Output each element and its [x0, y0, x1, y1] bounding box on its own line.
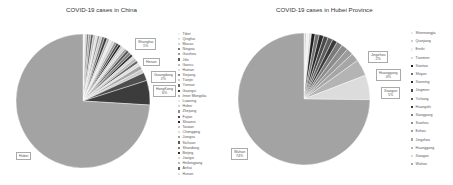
- legend-item: Qianjiang: [411, 37, 436, 45]
- legend-item: Inner Mongolia: [178, 93, 206, 98]
- legend-swatch-icon: [178, 121, 180, 123]
- legend-swatch-icon: [178, 157, 180, 159]
- legend-swatch-icon: [178, 38, 180, 40]
- legend-label: Ningxia: [183, 47, 195, 51]
- legend-label: Yunnan: [183, 83, 195, 87]
- legend-swatch-icon: [411, 163, 413, 165]
- legend-swatch-icon: [178, 152, 180, 154]
- data-label-xiaogan: Xiaogan5%: [381, 87, 400, 99]
- legend-swatch-icon: [178, 84, 180, 86]
- legend-item: Yichang: [411, 95, 436, 103]
- data-label-huanggang: Huanggang4%: [376, 69, 401, 81]
- legend-label: Sichuan: [183, 141, 196, 145]
- legend-label: Heilongjiang: [183, 161, 203, 165]
- legend-swatch-icon: [178, 48, 180, 50]
- legend-label: Tibet: [183, 32, 191, 36]
- legend-item: Ezhou: [411, 127, 436, 135]
- legend-item: Huanggang: [411, 144, 436, 152]
- legend-label: Suizhou: [416, 121, 429, 125]
- legend-swatch-icon: [178, 69, 180, 71]
- legend-label: Guangxi: [183, 89, 196, 93]
- legend-swatch-icon: [411, 114, 413, 116]
- legend-swatch-icon: [411, 138, 413, 140]
- legend-swatch-icon: [411, 122, 413, 124]
- legend-label: Wuhan: [416, 162, 427, 166]
- legend-label: Taiwan: [183, 125, 194, 129]
- legend-item: Wuhan: [411, 160, 436, 168]
- legend-label: Guizhou: [183, 52, 196, 56]
- legend-swatch-icon: [411, 89, 413, 91]
- legend-label: Tianmen: [416, 56, 430, 60]
- legend-swatch-icon: [178, 33, 180, 35]
- legend-item: Jingmen: [411, 86, 436, 94]
- data-label-jingzhou: Jingzhou2%: [368, 51, 388, 63]
- legend-item: Shiyan: [411, 70, 436, 78]
- legend-label: Macau: [183, 42, 194, 46]
- legend-swatch-icon: [178, 110, 180, 112]
- legend-item: Tianmen: [411, 54, 436, 62]
- legend-label: Anhui: [183, 166, 192, 170]
- legend-swatch-icon: [411, 147, 413, 149]
- china-legend: TibetQinghaiMacauNingxiaGuizhouJilinGans…: [178, 31, 206, 176]
- legend-swatch-icon: [178, 131, 180, 133]
- data-label-hubei: Hubei: [16, 152, 31, 160]
- legend-swatch-icon: [178, 105, 180, 107]
- legend-swatch-icon: [411, 98, 413, 100]
- legend-label: Gansu: [183, 63, 194, 67]
- legend-label: Huanggang: [416, 146, 435, 150]
- legend-label: Xinjiang: [183, 73, 196, 77]
- legend-swatch-icon: [178, 79, 180, 81]
- legend-label: Jilin: [183, 58, 189, 62]
- legend-label: Jiangsu: [183, 135, 195, 139]
- legend-swatch-icon: [411, 155, 413, 157]
- data-label-hong-kong: HongKong6%: [153, 85, 176, 97]
- legend-swatch-icon: [178, 100, 180, 102]
- legend-label: Huangshi: [416, 105, 431, 109]
- legend-swatch-icon: [178, 53, 180, 55]
- legend-label: Inner Mongolia: [183, 94, 207, 98]
- hubei-chart-panel: COVID-19 cases in Hubei Province Jingzho…: [226, 0, 453, 185]
- legend-label: Shaanxi: [183, 120, 196, 124]
- legend-swatch-icon: [411, 130, 413, 132]
- legend-item: Xiantao: [411, 62, 436, 70]
- hubei-legend: ShennongjiaQianjiangEnshiTianmenXiantaoS…: [411, 29, 436, 168]
- legend-label: Yichang: [416, 97, 429, 101]
- legend-swatch-icon: [178, 95, 180, 97]
- legend-item: Suizhou: [411, 119, 436, 127]
- legend-swatch-icon: [411, 40, 413, 42]
- legend-label: Jingzhou: [416, 138, 430, 142]
- legend-item: Xiangyang: [411, 111, 436, 119]
- legend-label: Ezhou: [416, 129, 426, 133]
- legend-swatch-icon: [178, 167, 180, 169]
- legend-swatch-icon: [411, 106, 413, 108]
- legend-item: Huangshi: [411, 103, 436, 111]
- legend-item: Enshi: [411, 45, 436, 53]
- legend-label: Xiangyang: [416, 113, 433, 117]
- legend-swatch-icon: [178, 162, 180, 164]
- legend-swatch-icon: [178, 116, 180, 118]
- legend-label: Jingmen: [416, 88, 430, 92]
- legend-label: Shennongjia: [416, 31, 436, 35]
- legend-swatch-icon: [178, 43, 180, 45]
- legend-label: Chongqing: [183, 130, 200, 134]
- legend-swatch-icon: [411, 81, 413, 83]
- legend-swatch-icon: [411, 73, 413, 75]
- legend-label: Shandong: [183, 146, 199, 150]
- legend-swatch-icon: [178, 136, 180, 138]
- legend-item: Hunan: [178, 171, 206, 176]
- legend-swatch-icon: [178, 141, 180, 143]
- legend-swatch-icon: [411, 57, 413, 59]
- legend-label: Liaoning: [183, 99, 197, 103]
- data-label-henan: Henan: [143, 58, 160, 66]
- legend-label: Jiangxi: [183, 156, 194, 160]
- legend-label: Xiaogan: [416, 154, 429, 158]
- legend-label: Fujian: [183, 115, 193, 119]
- legend-item: Jingzhou: [411, 135, 436, 143]
- legend-swatch-icon: [178, 90, 180, 92]
- legend-label: Hebei: [183, 104, 192, 108]
- legend-swatch-icon: [411, 65, 413, 67]
- data-label-wuhan: Wuhan74%: [231, 148, 248, 160]
- legend-label: Xiantao: [416, 64, 428, 68]
- legend-swatch-icon: [178, 126, 180, 128]
- legend-label: Zhejiang: [183, 109, 197, 113]
